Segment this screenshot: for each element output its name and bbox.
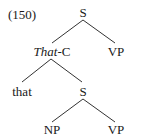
branch-that-c-to-that (22, 59, 51, 82)
node-that-word: that (12, 85, 32, 99)
branch-s-to-that-c (52, 20, 83, 43)
node-embedded-s: S (79, 85, 86, 99)
node-that-c-suffix: -C (57, 44, 70, 59)
syntax-tree-figure: (150) S That-C VP that S NP VP (0, 0, 142, 140)
node-that-c: That-C (34, 45, 71, 59)
node-root-s: S (79, 6, 86, 20)
example-number: (150) (8, 8, 36, 22)
branch-that-c-to-s (51, 59, 82, 82)
branch-s-to-np (52, 99, 83, 122)
branch-s-to-vp-lower (83, 99, 115, 122)
branch-s-to-vp (83, 20, 115, 43)
node-that-c-head: That (34, 44, 58, 59)
node-np: NP (44, 123, 61, 137)
node-bottom-vp: VP (108, 123, 125, 137)
node-top-vp: VP (108, 45, 125, 59)
